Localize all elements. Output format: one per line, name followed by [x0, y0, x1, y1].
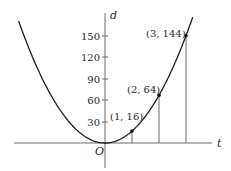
y-tick-label: 60: [87, 95, 100, 106]
y-tick-label: 90: [87, 74, 100, 85]
y-tick-label: 150: [81, 31, 100, 42]
y-ticks: 306090120150: [81, 31, 108, 128]
origin-label: O: [95, 145, 104, 158]
y-tick-label: 30: [87, 117, 100, 128]
point-label: (1, 16): [110, 111, 143, 122]
point-label: (2, 64): [127, 84, 160, 95]
point-label: (3, 144): [146, 28, 186, 39]
y-axis-label: d: [110, 9, 117, 22]
x-axis-label: t: [217, 137, 222, 150]
y-tick-label: 120: [81, 52, 100, 63]
data-points: (1, 16)(2, 64)(3, 144): [110, 28, 188, 133]
data-point: [130, 129, 134, 133]
parabola-chart: t d O 306090120150 (1, 16)(2, 64)(3, 144…: [0, 0, 231, 171]
